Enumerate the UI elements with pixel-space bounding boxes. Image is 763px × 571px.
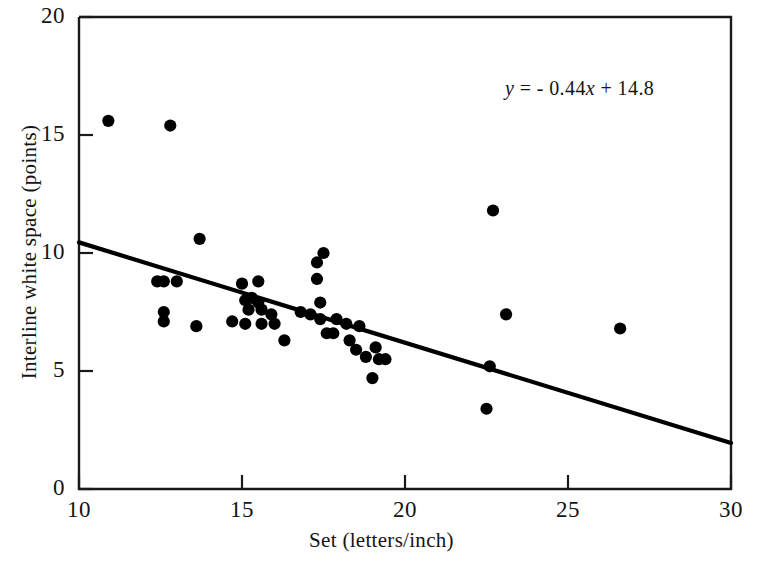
data-point: [480, 403, 492, 415]
data-point: [350, 344, 362, 356]
data-point: [278, 334, 290, 346]
data-point: [370, 341, 382, 353]
data-point: [614, 322, 626, 334]
data-point: [252, 275, 264, 287]
data-point: [327, 327, 339, 339]
data-point: [500, 308, 512, 320]
x-axis-tick-label-20: 20: [378, 497, 432, 523]
equation-intercept-text: + 14.8: [595, 77, 654, 99]
y-axis-title-container: Interline white space (points): [17, 16, 47, 488]
data-point: [255, 318, 267, 330]
data-point: [164, 119, 176, 131]
data-point: [269, 318, 281, 330]
data-point: [236, 278, 248, 290]
data-point: [484, 360, 496, 372]
data-point: [340, 318, 352, 330]
regression-equation-annotation: y = - 0.44x + 14.8: [505, 77, 654, 100]
data-point: [311, 273, 323, 285]
data-point: [360, 351, 372, 363]
x-axis-tick-label-25: 25: [541, 497, 595, 523]
regression-line: [79, 242, 731, 443]
data-point: [158, 275, 170, 287]
data-point: [317, 247, 329, 259]
data-point: [239, 318, 251, 330]
x-axis-tick-label-15: 15: [215, 497, 269, 523]
data-point: [102, 115, 114, 127]
equation-y-symbol: y: [505, 77, 514, 99]
x-axis-title: Set (letters/inch): [0, 528, 763, 553]
equation-x-symbol: x: [586, 77, 595, 99]
equation-slope-text: = - 0.44: [514, 77, 586, 99]
data-point: [366, 372, 378, 384]
data-point: [314, 313, 326, 325]
data-point: [487, 204, 499, 216]
x-axis-tick-label-10: 10: [52, 497, 106, 523]
data-point: [158, 315, 170, 327]
data-layer: [79, 115, 731, 443]
scatter-plot-figure: 20 15 10 5 0 10 15 20 25 30 Set (letters…: [0, 0, 763, 571]
data-point: [171, 275, 183, 287]
data-point: [190, 320, 202, 332]
data-point: [242, 304, 254, 316]
data-point: [226, 315, 238, 327]
data-point: [194, 233, 206, 245]
data-point: [314, 296, 326, 308]
x-axis-tick-label-30: 30: [704, 497, 758, 523]
y-axis-title: Interline white space (points): [17, 125, 41, 380]
data-point: [353, 320, 365, 332]
data-point: [379, 353, 391, 365]
